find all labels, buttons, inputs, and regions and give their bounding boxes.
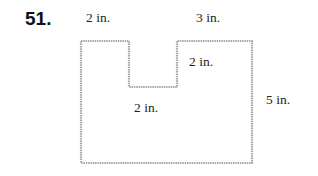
figure-outline bbox=[81, 41, 252, 163]
notched-rectangle-figure bbox=[0, 0, 318, 176]
